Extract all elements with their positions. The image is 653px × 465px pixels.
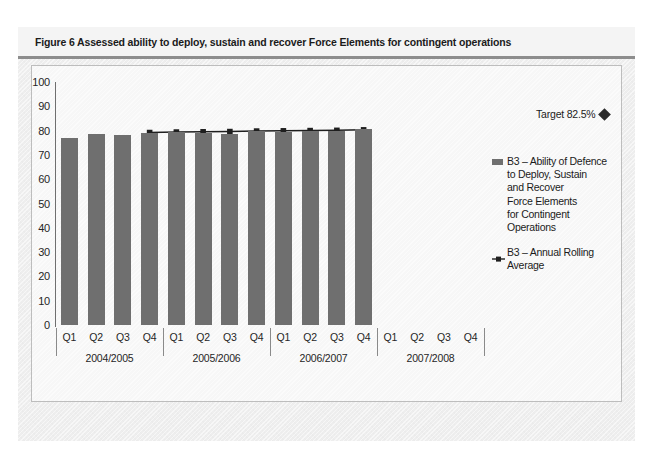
y-tick-label: 0 [16,319,50,331]
bar [248,131,265,325]
legend-item-line: B3 – Annual Rolling Average [492,246,622,272]
x-tick-label-quarter: Q4 [242,331,272,343]
legend-label-line: B3 – Annual Rolling Average [507,246,622,272]
target-annotation: Target 82.5% [536,108,609,120]
legend-label-bars: B3 – Ability of Defence to Deploy, Susta… [507,155,622,234]
x-axis-year-label: 2005/2006 [162,352,272,364]
figure-caption-bar: Figure 6 Assessed ability to deploy, sus… [18,27,635,56]
plot-area [56,82,484,325]
bar [61,138,78,325]
y-tick-label: 20 [16,270,50,282]
caption-divider [18,56,635,59]
bar [88,134,105,325]
bar-swatch-icon [492,159,503,165]
x-axis-year-label: 2006/2007 [269,352,379,364]
legend-item-bars: B3 – Ability of Defence to Deploy, Susta… [492,155,622,234]
chart-legend: B3 – Ability of Defence to Deploy, Susta… [492,155,622,285]
y-tick-label: 90 [16,100,50,112]
bar [275,132,292,325]
x-tick-label-quarter: Q2 [188,331,218,343]
x-tick-label-quarter: Q3 [429,331,459,343]
x-tick-label-quarter: Q3 [108,331,138,343]
x-tick-label-quarter: Q1 [161,331,191,343]
x-tick-label-quarter: Q1 [54,331,84,343]
x-tick-label-quarter: Q2 [402,331,432,343]
x-tick-label-quarter: Q4 [135,331,165,343]
x-axis-year-label: 2007/2008 [376,352,486,364]
bar [195,133,212,325]
bar [221,134,238,325]
bar [141,133,158,325]
y-tick-label: 60 [16,173,50,185]
figure-screenshot: Figure 6 Assessed ability to deploy, sus… [0,0,653,465]
y-tick-label: 50 [16,198,50,210]
target-label: Target 82.5% [536,108,595,120]
y-tick-label: 80 [16,125,50,137]
x-tick-label-quarter: Q3 [215,331,245,343]
bar [328,131,345,325]
x-tick-label-quarter: Q1 [268,331,298,343]
diamond-icon [599,108,612,121]
y-tick-label: 10 [16,295,50,307]
bar [114,135,131,325]
x-axis-year-label: 2004/2005 [55,352,165,364]
x-tick-label-quarter: Q4 [349,331,379,343]
y-axis-ticks: 1009080706050403020100 [14,82,50,325]
y-tick-label: 40 [16,222,50,234]
bar [355,129,372,325]
y-tick-label: 100 [16,76,50,88]
line-marker-icon [492,249,505,257]
y-tick-label: 30 [16,246,50,258]
x-tick-label-quarter: Q2 [295,331,325,343]
bar [168,132,185,325]
x-tick-label-quarter: Q3 [322,331,352,343]
x-tick-label-quarter: Q1 [375,331,405,343]
y-tick-label: 70 [16,149,50,161]
x-tick-label-quarter: Q2 [81,331,111,343]
figure-caption: Figure 6 Assessed ability to deploy, sus… [18,36,511,48]
x-tick-label-quarter: Q4 [456,331,486,343]
bar [302,131,319,325]
